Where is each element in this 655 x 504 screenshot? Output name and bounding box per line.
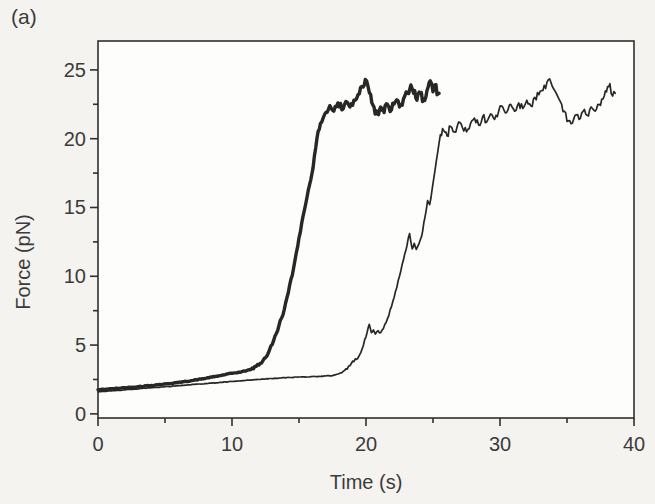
y-tick-label: 10 (64, 265, 86, 287)
y-tick-label: 0 (75, 403, 86, 425)
y-axis-label: Force (pN) (12, 214, 35, 310)
force-time-chart: 0102030400510152025 (0, 0, 655, 504)
x-axis-label: Time (s) (330, 471, 403, 494)
chart-svg: 0102030400510152025 (0, 0, 655, 504)
figure-panel: (a) 0102030400510152025 Force (pN) Time … (0, 0, 655, 504)
x-tick-label: 0 (92, 433, 103, 455)
y-tick-label: 25 (64, 59, 86, 81)
x-tick-label: 40 (623, 433, 645, 455)
x-tick-label: 10 (221, 433, 243, 455)
x-tick-label: 30 (489, 433, 511, 455)
x-tick-label: 20 (355, 433, 377, 455)
y-tick-label: 15 (64, 196, 86, 218)
y-tick-label: 20 (64, 128, 86, 150)
y-tick-label: 5 (75, 334, 86, 356)
plot-background (98, 41, 634, 418)
